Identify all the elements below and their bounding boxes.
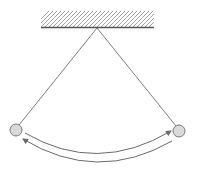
bob-right xyxy=(173,125,185,137)
bob-left xyxy=(10,124,22,136)
ceiling-hatch xyxy=(33,11,165,27)
pendulum-diagram xyxy=(0,0,199,176)
string-left xyxy=(19,28,97,125)
string-right xyxy=(97,28,176,126)
arrow-swing-right-icon xyxy=(25,131,171,154)
